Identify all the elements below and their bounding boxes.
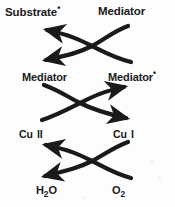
label-mediator-radical-text: Mediator <box>108 71 153 83</box>
label-copper-one-symbol: Cu <box>113 128 127 140</box>
label-dioxygen-subscript: 2 <box>120 189 125 199</box>
label-mediator-text: Mediator <box>22 71 67 83</box>
arrow-substrate-lower-left <box>46 26 128 60</box>
label-mediator: Mediator <box>22 72 67 83</box>
arrow-copper-lower-left <box>45 142 128 176</box>
label-copper-two-numeral: II <box>37 128 43 140</box>
scan-artifact <box>158 176 161 180</box>
label-substrate-radical: Substrate• <box>5 7 60 19</box>
arrow-block-copper <box>45 142 131 178</box>
label-dioxygen: O2 <box>112 185 125 196</box>
label-water-element: H <box>36 184 44 196</box>
label-substrate-bracketed-text: Mediator <box>98 5 145 17</box>
label-mediator-radical: Mediator• <box>108 72 156 83</box>
label-substrate-radical-superscript: • <box>57 3 60 13</box>
scan-artifact <box>82 196 85 199</box>
label-water: H2O <box>36 185 57 196</box>
arrow-layer <box>0 0 175 207</box>
label-copper-one-numeral: I <box>131 128 134 140</box>
label-substrate-radical-text: Substrate <box>5 6 57 18</box>
label-mediator-radical-superscript: • <box>153 68 156 78</box>
arrow-mediator-lower-right <box>44 85 126 118</box>
label-copper-two-symbol: Cu <box>19 128 33 140</box>
label-water-tail: O <box>48 184 56 196</box>
arrow-copper-upper-left <box>46 145 131 178</box>
arrow-substrate-upper-left <box>47 30 131 62</box>
arrow-block-substrate <box>46 26 131 62</box>
label-copper-one: Cu I <box>113 129 134 140</box>
label-substrate-bracketed: Mediator <box>98 6 145 18</box>
arrow-block-mediator <box>42 85 126 120</box>
label-copper-two: Cu II <box>19 129 43 140</box>
reaction-scheme-figure: Substrate• Mediator Mediator Mediator• C… <box>0 0 175 207</box>
arrow-mediator-upper-right <box>42 87 124 120</box>
scan-artifact <box>150 160 154 165</box>
